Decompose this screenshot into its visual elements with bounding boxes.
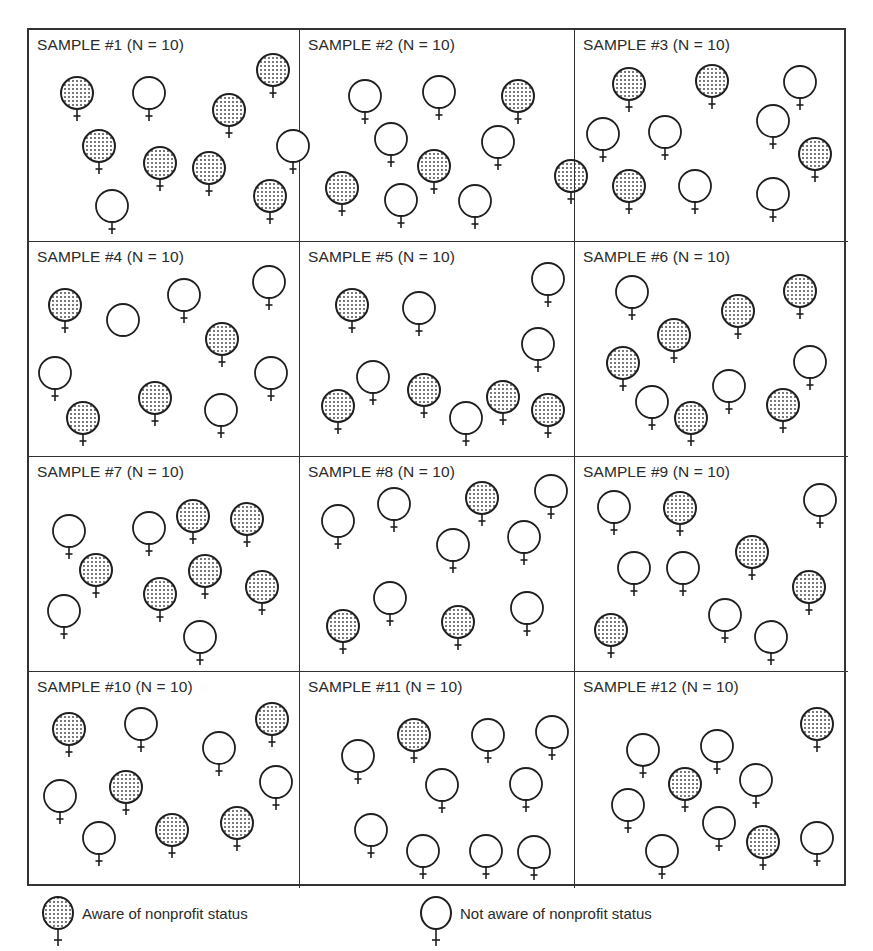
female-not-aware-icon: [457, 183, 493, 231]
female-aware-icon: [65, 400, 101, 448]
sample-panel-1: SAMPLE #1 (N = 10): [29, 30, 300, 242]
female-aware-icon: [219, 805, 255, 853]
sample-title: SAMPLE #1 (N = 10): [37, 36, 184, 54]
female-not-aware-icon: [201, 730, 237, 778]
sample-panel-10: SAMPLE #10 (N = 10): [29, 672, 300, 888]
female-not-aware-icon: [418, 896, 454, 948]
female-not-aware-icon: [533, 473, 569, 521]
female-not-aware-icon: [383, 182, 419, 230]
female-aware-icon: [530, 392, 566, 440]
female-not-aware-icon: [585, 116, 621, 164]
legend-not-aware-item: Not aware of nonprofit status: [418, 896, 652, 948]
female-aware-icon: [656, 317, 692, 365]
female-not-aware-icon: [699, 728, 735, 776]
sample-panel-5: SAMPLE #5 (N = 10): [300, 242, 575, 457]
female-not-aware-icon: [614, 274, 650, 322]
female-not-aware-icon: [448, 400, 484, 448]
female-not-aware-icon: [625, 732, 661, 780]
female-not-aware-icon: [634, 384, 670, 432]
female-not-aware-icon: [105, 302, 141, 350]
female-aware-icon: [81, 128, 117, 176]
female-not-aware-icon: [131, 75, 167, 123]
sample-title: SAMPLE #10 (N = 10): [37, 678, 193, 696]
sample-title: SAMPLE #2 (N = 10): [308, 36, 455, 54]
female-not-aware-icon: [435, 527, 471, 575]
female-aware-icon: [255, 52, 291, 100]
sample-title: SAMPLE #11 (N = 10): [308, 678, 463, 696]
female-not-aware-icon: [253, 355, 289, 403]
sample-title: SAMPLE #12 (N = 10): [583, 678, 739, 696]
female-not-aware-icon: [610, 787, 646, 835]
sample-title: SAMPLE #3 (N = 10): [583, 36, 730, 54]
female-not-aware-icon: [182, 619, 218, 667]
sample-title: SAMPLE #7 (N = 10): [37, 463, 184, 481]
sample-panel-8: SAMPLE #8 (N = 10): [300, 457, 575, 672]
female-not-aware-icon: [373, 121, 409, 169]
legend-aware-label: Aware of nonprofit status: [82, 905, 248, 922]
female-not-aware-icon: [46, 593, 82, 641]
female-aware-icon: [500, 78, 536, 126]
female-not-aware-icon: [258, 764, 294, 812]
female-aware-icon: [254, 701, 290, 749]
sample-panel-12: SAMPLE #12 (N = 10): [575, 672, 848, 888]
female-not-aware-icon: [203, 392, 239, 440]
female-aware-icon: [108, 769, 144, 817]
female-aware-icon: [765, 387, 801, 435]
sample-panel-4: SAMPLE #4 (N = 10): [29, 242, 300, 457]
female-not-aware-icon: [534, 714, 570, 762]
female-aware-icon: [47, 287, 83, 335]
female-aware-icon: [782, 273, 818, 321]
sample-panel-7: SAMPLE #7 (N = 10): [29, 457, 300, 672]
sample-panel-9: SAMPLE #9 (N = 10): [575, 457, 848, 672]
female-aware-icon: [745, 824, 781, 872]
sample-grid: SAMPLE #1 (N = 10)SAMPLE #2 (N = 10)SAMP…: [27, 28, 846, 886]
female-not-aware-icon: [251, 264, 287, 312]
female-not-aware-icon: [711, 368, 747, 416]
sample-panel-3: SAMPLE #3 (N = 10): [575, 30, 848, 242]
female-not-aware-icon: [376, 486, 412, 534]
female-aware-icon: [406, 372, 442, 420]
female-aware-icon: [142, 576, 178, 624]
female-aware-icon: [334, 287, 370, 335]
female-aware-icon: [59, 75, 95, 123]
female-aware-icon: [320, 388, 356, 436]
female-aware-icon: [211, 92, 247, 140]
female-not-aware-icon: [468, 833, 504, 881]
female-aware-icon: [440, 604, 476, 652]
female-not-aware-icon: [509, 590, 545, 638]
female-not-aware-icon: [755, 103, 791, 151]
female-aware-icon: [142, 145, 178, 193]
female-not-aware-icon: [596, 489, 632, 537]
female-aware-icon: [694, 63, 730, 111]
female-aware-icon: [734, 534, 770, 582]
female-not-aware-icon: [131, 510, 167, 558]
female-not-aware-icon: [792, 344, 828, 392]
female-aware-icon: [667, 766, 703, 814]
female-not-aware-icon: [616, 550, 652, 598]
female-not-aware-icon: [42, 778, 78, 826]
sample-title: SAMPLE #4 (N = 10): [37, 248, 184, 266]
female-not-aware-icon: [94, 188, 130, 236]
female-aware-icon: [593, 612, 629, 660]
female-aware-icon: [187, 553, 223, 601]
female-aware-icon: [51, 711, 87, 759]
female-aware-icon: [229, 501, 265, 549]
female-not-aware-icon: [424, 767, 460, 815]
female-not-aware-icon: [753, 619, 789, 667]
female-aware-icon: [244, 569, 280, 617]
female-aware-icon: [662, 490, 698, 538]
sample-title: SAMPLE #5 (N = 10): [308, 248, 455, 266]
female-not-aware-icon: [355, 359, 391, 407]
female-aware-icon: [325, 608, 361, 656]
female-aware-icon: [154, 812, 190, 860]
legend-not-aware-label: Not aware of nonprofit status: [460, 905, 652, 922]
sample-panel-6: SAMPLE #6 (N = 10): [575, 242, 848, 457]
female-not-aware-icon: [802, 482, 838, 530]
female-aware-icon: [204, 321, 240, 369]
female-not-aware-icon: [123, 706, 159, 754]
female-aware-icon: [396, 717, 432, 765]
female-not-aware-icon: [799, 820, 835, 868]
female-not-aware-icon: [353, 812, 389, 860]
female-aware-icon: [720, 293, 756, 341]
female-not-aware-icon: [707, 597, 743, 645]
